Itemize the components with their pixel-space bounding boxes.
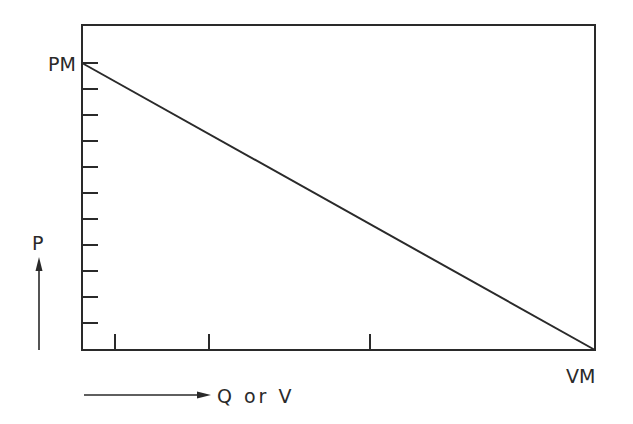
p-up-arrow-icon: [36, 257, 43, 350]
p-axis-label: P: [32, 232, 43, 254]
plot-frame: [82, 25, 595, 350]
x-axis-ticks: [115, 334, 370, 350]
price-quantity-line: [82, 63, 595, 350]
y-axis-ticks: [82, 63, 98, 323]
diagram: PM VM P Q or V: [0, 0, 633, 424]
pm-label: PM: [48, 53, 76, 75]
q-right-arrow-icon: [84, 392, 211, 399]
vm-label: VM: [566, 365, 595, 387]
q-or-v-axis-label: Q or V: [217, 385, 294, 407]
